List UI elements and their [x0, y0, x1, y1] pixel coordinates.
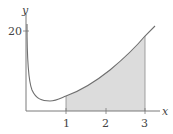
function-graph: y x 20 1 2 3 [0, 0, 173, 134]
x-tick-label-3: 3 [141, 117, 148, 130]
x-axis-label: x [162, 105, 169, 118]
x-tick-label-2: 2 [102, 117, 109, 130]
x-tick-label-1: 1 [63, 117, 70, 130]
y-axis-label: y [21, 4, 29, 17]
y-tick-label-20: 20 [8, 25, 22, 38]
